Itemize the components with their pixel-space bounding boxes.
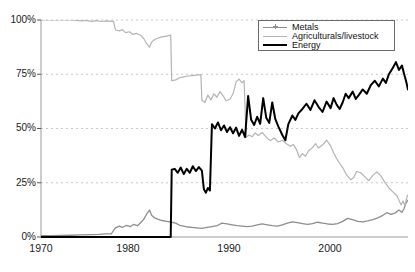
legend-item-agriculturals: Agriculturals/livestock xyxy=(262,32,394,41)
x-tick-1970: 1970 xyxy=(18,243,64,254)
y-tick-0: 0% xyxy=(0,232,36,242)
legend-swatch-energy-icon xyxy=(262,41,288,50)
y-tick-75: 75% xyxy=(0,69,36,79)
axis-ticks xyxy=(37,20,41,237)
y-tick-50: 50% xyxy=(0,123,36,133)
legend-label-energy: Energy xyxy=(292,41,321,50)
legend-swatch-agriculturals-icon xyxy=(262,32,288,41)
chart-legend: Metals Agriculturals/livestock Energy xyxy=(258,20,395,51)
chart-container: 100% 75% 50% 25% 0% 1970 1980 1990 2000 … xyxy=(0,0,415,272)
x-tick-1980: 1980 xyxy=(105,243,151,254)
series-line-energy xyxy=(41,62,408,237)
series-line-metals xyxy=(41,200,408,236)
legend-swatch-metals-icon xyxy=(262,23,288,32)
x-tick-2000: 2000 xyxy=(307,243,353,254)
legend-item-energy: Energy xyxy=(262,41,394,50)
y-tick-100: 100% xyxy=(0,15,36,25)
y-tick-25: 25% xyxy=(0,178,36,188)
x-tick-1990: 1990 xyxy=(206,243,252,254)
